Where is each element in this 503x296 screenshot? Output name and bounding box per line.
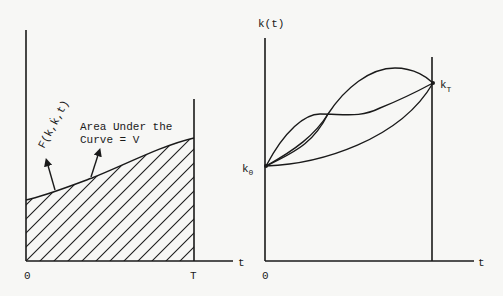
left-x-axis-label: t [238,257,245,269]
path-overshoot [266,68,433,166]
left-T-label: T [190,270,197,282]
kT-label-sub: T [447,85,452,94]
area-label-line2: Curve = V [80,134,140,146]
left-panel: F(k,k̇,t) Area Under the Curve = V 0 T t [0,30,398,282]
k0-point [264,164,268,168]
kT-point [431,81,435,85]
area-label-line1: Area Under the [80,121,172,133]
area-label-arrow [91,152,99,177]
right-panel: k(t) k0 kT 0 t [242,18,485,282]
curve-label-arrow [47,162,55,190]
k0-label: k0 [242,163,254,177]
k0-label-sub: 0 [249,168,254,177]
right-y-axis-label: k(t) [258,18,284,30]
kT-label: kT [440,79,452,94]
left-origin-label: 0 [24,270,31,282]
left-curve-label: F(k,k̇,t) [35,98,71,151]
diagram-canvas: F(k,k̇,t) Area Under the Curve = V 0 T t… [0,0,503,296]
right-origin-label: 0 [262,270,269,282]
right-x-axis-label: t [478,257,485,269]
